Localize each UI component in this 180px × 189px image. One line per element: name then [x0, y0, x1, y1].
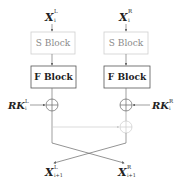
output-left-sup: L — [54, 164, 58, 170]
xor-right-icon — [120, 99, 132, 111]
output-right-sub: i+1 — [127, 172, 136, 178]
output-right-sup: R — [127, 164, 132, 170]
input-left-base: X — [44, 11, 54, 24]
feistel-round-diagram: X L i X R i S Block S Block F Block F Bl… — [0, 0, 180, 189]
input-right-sub: i — [128, 17, 130, 23]
output-right-label: X R i+1 — [117, 164, 136, 179]
output-left-label: X L i+1 — [44, 164, 63, 179]
cross-line-left-to-right — [52, 143, 124, 163]
cross-line-right-to-left — [54, 143, 126, 163]
input-right-base: X — [118, 11, 128, 24]
f-block-left-label: F Block — [34, 72, 73, 82]
round-key-right-sup: R — [169, 98, 174, 104]
round-key-left-label: RK L i — [7, 98, 29, 111]
output-left-sub: i+1 — [54, 172, 63, 178]
f-block-right-label: F Block — [108, 72, 147, 82]
input-left-label: X L i — [44, 8, 58, 24]
input-right-label: X R i — [118, 8, 133, 24]
input-left-sup: L — [54, 8, 58, 14]
round-key-left-base: RK — [7, 100, 26, 111]
output-left-base: X — [44, 166, 54, 179]
input-left-sub: i — [54, 17, 56, 23]
round-key-left-sup: L — [25, 98, 29, 104]
input-right-sup: R — [128, 8, 133, 14]
round-key-right-base: RK — [151, 100, 170, 111]
xor-left-icon — [46, 99, 58, 111]
round-key-right-sub: i — [169, 105, 171, 111]
round-key-right-label: RK R i — [151, 98, 174, 111]
round-key-left-sub: i — [25, 105, 27, 111]
s-block-left-label: S Block — [36, 38, 71, 48]
xor-faint-icon — [120, 121, 132, 133]
s-block-right-label: S Block — [109, 38, 144, 48]
output-right-base: X — [117, 166, 127, 179]
